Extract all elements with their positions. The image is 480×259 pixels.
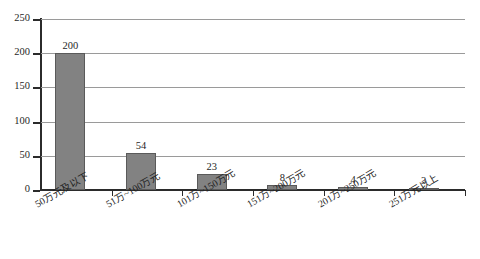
y-axis-tick	[33, 87, 40, 89]
y-axis-tick-label: 200	[0, 47, 30, 58]
y-axis-tick-label: 0	[0, 184, 30, 195]
y-axis-tick-label: 150	[0, 81, 30, 92]
plot-area	[41, 19, 465, 190]
y-axis-tick-label: 250	[0, 13, 30, 24]
x-axis-tick	[465, 190, 466, 196]
y-axis-tick	[33, 19, 40, 21]
y-axis-tick	[33, 53, 40, 55]
bar-value-label: 200	[41, 40, 99, 51]
y-axis-tick-label: 50	[0, 150, 30, 161]
y-axis-tick	[33, 156, 40, 158]
y-axis-tick	[33, 122, 40, 124]
bar-chart: 050100150200250 2005423843 50万元及以下51万~10…	[0, 0, 480, 259]
y-axis-tick-label: 100	[0, 116, 30, 127]
y-axis-tick	[33, 190, 40, 192]
bar	[55, 53, 85, 190]
bar-value-label: 54	[112, 140, 170, 151]
